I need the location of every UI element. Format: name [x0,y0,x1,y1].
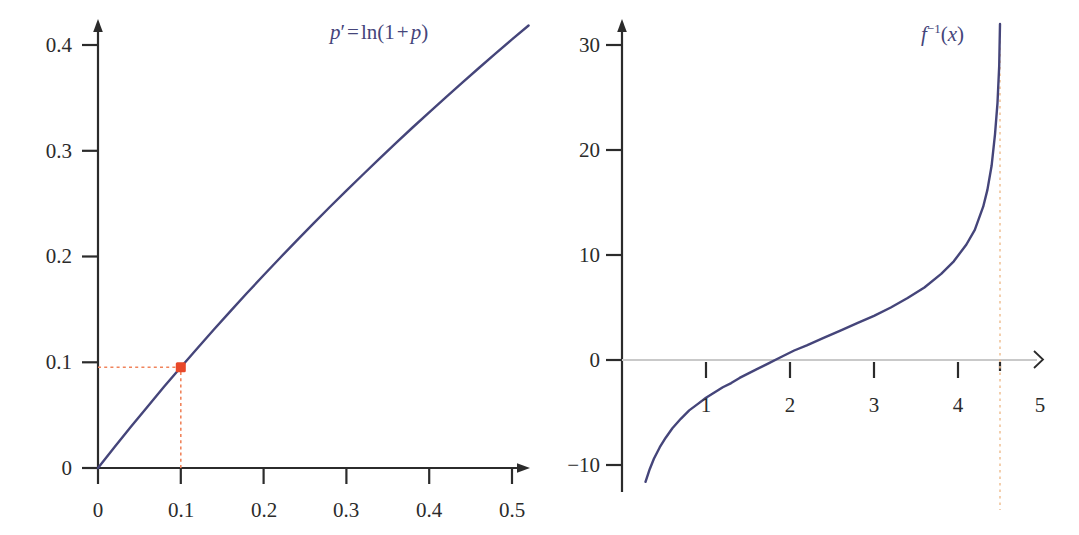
annotation-one: 1 [384,20,395,44]
left-x-tick-label-3: 0.3 [333,500,359,521]
annotation-fn: ln [361,20,377,44]
right-x-axis [606,351,1043,368]
right-curve-annotation: f−1(x) [921,22,964,45]
left-y-tick-label-0: 0 [20,458,72,479]
left-y-axis [93,19,103,468]
right-y-tick-label-4: 30 [544,35,600,56]
left-x-tick-label-2: 0.2 [251,500,277,521]
annotation-close-paren: ) [957,22,964,46]
left-marker-point [176,362,186,372]
right-y-tick-label-0: −10 [544,455,600,476]
left-plot-svg [0,0,540,535]
right-x-tick-label-4: 5 [1035,395,1046,416]
right-x-tick-label-0: 1 [701,395,712,416]
annotation-lhs: p [330,20,341,44]
left-x-tick-label-1: 0.1 [168,500,194,521]
right-x-tick-label-3: 4 [953,395,964,416]
right-x-tick-label-1: 2 [785,395,796,416]
left-y-tick-label-1: 0.1 [20,352,72,373]
left-y-tick-label-3: 0.3 [20,141,72,162]
annotation-close-paren: ) [421,20,428,44]
left-x-tick-label-0: 0 [93,500,104,521]
right-y-ticks [606,45,622,465]
right-curve-finv [646,24,1001,482]
left-x-tick-label-5: 0.5 [499,500,525,521]
left-y-tick-label-2: 0.2 [20,246,72,267]
annotation-equals: = [345,20,361,44]
chart-panel-left: 0 0.1 0.2 0.3 0.4 0 0.1 0.2 0.3 0.4 0.5 … [0,0,540,535]
left-x-axis [82,463,530,473]
right-x-tick-label-2: 3 [869,395,880,416]
annotation-exponent: −1 [927,21,941,36]
left-x-ticks [98,468,512,484]
chart-panel-right: −10 0 10 20 30 1 2 3 4 5 f−1(x) [540,0,1079,535]
left-y-tick-label-4: 0.4 [20,35,72,56]
figure-container: 0 0.1 0.2 0.3 0.4 0 0.1 0.2 0.3 0.4 0.5 … [0,0,1079,535]
left-curve-ln1p [98,26,529,469]
right-x-ticks [706,362,1000,378]
left-y-ticks [82,45,98,468]
annotation-arg: p [411,20,422,44]
annotation-open-paren: ( [941,22,948,46]
left-x-tick-label-4: 0.4 [416,500,442,521]
left-curve-annotation: p′=ln(1+p) [330,22,428,43]
right-y-tick-label-3: 20 [544,140,600,161]
right-y-tick-label-1: 0 [544,350,600,371]
annotation-plus: + [395,20,411,44]
right-y-tick-label-2: 10 [544,245,600,266]
right-plot-svg [540,0,1079,535]
annotation-arg: x [948,22,957,46]
